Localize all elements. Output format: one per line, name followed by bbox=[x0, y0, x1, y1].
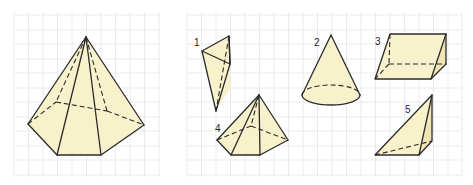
figure-2-cone: 2 bbox=[302, 35, 360, 105]
figure-4-pentagonal-pyramid: 4 bbox=[215, 95, 288, 155]
figure-3-prism: 3 bbox=[375, 34, 446, 79]
figure-5-triangular-pyramid: 5 bbox=[375, 95, 432, 155]
figure-1-tetrahedron: 1 bbox=[194, 36, 230, 111]
figure-1-label: 1 bbox=[194, 37, 200, 48]
figure-5-label: 5 bbox=[405, 104, 411, 115]
hexagonal-pyramid bbox=[28, 37, 144, 155]
figure-4-label: 4 bbox=[215, 123, 221, 134]
geometry-figure: 1 2 3 4 5 bbox=[0, 0, 473, 185]
figure-2-label: 2 bbox=[314, 37, 320, 48]
figure-3-label: 3 bbox=[375, 36, 381, 47]
